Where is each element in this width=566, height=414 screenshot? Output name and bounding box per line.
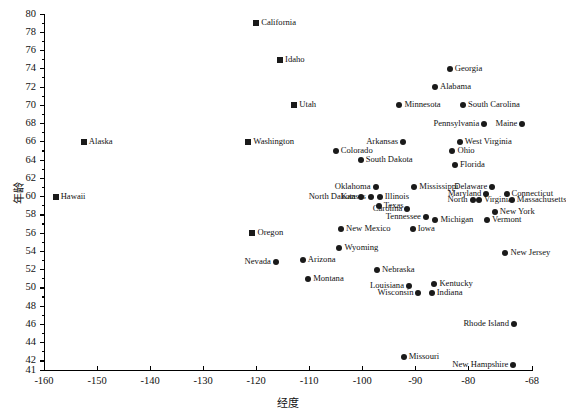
- x-axis-title: 经度: [258, 394, 318, 410]
- data-point-label: New Hampshire: [452, 360, 508, 369]
- data-point[interactable]: [358, 194, 364, 200]
- data-point[interactable]: [396, 102, 402, 108]
- data-point[interactable]: [305, 276, 311, 282]
- data-point[interactable]: [373, 184, 379, 190]
- data-point[interactable]: [81, 139, 87, 145]
- data-point[interactable]: [452, 162, 458, 168]
- data-point-label: Rhode Island: [463, 319, 509, 328]
- data-point-label: Alaska: [89, 137, 113, 146]
- data-point[interactable]: [300, 257, 306, 263]
- data-point-label: Florida: [460, 160, 485, 169]
- data-point-label: Wyoming: [344, 243, 378, 252]
- data-point[interactable]: [447, 66, 453, 72]
- data-point[interactable]: [481, 121, 487, 127]
- data-point[interactable]: [432, 84, 438, 90]
- data-point[interactable]: [411, 184, 417, 190]
- data-point-label: Montana: [313, 274, 344, 283]
- data-point[interactable]: [449, 148, 455, 154]
- data-point[interactable]: [489, 184, 495, 190]
- data-point-label: North: [448, 195, 468, 204]
- data-point-label: North Dakota: [309, 192, 356, 201]
- data-point[interactable]: [457, 139, 463, 145]
- data-point[interactable]: [415, 290, 421, 296]
- data-point[interactable]: [253, 20, 259, 26]
- data-point-label: Minnesota: [404, 100, 440, 109]
- data-point[interactable]: [476, 197, 482, 203]
- data-point[interactable]: [368, 194, 374, 200]
- data-point-label: New Jersey: [510, 248, 550, 257]
- data-point[interactable]: [358, 157, 364, 163]
- data-point-label: Nevada: [245, 257, 271, 266]
- data-point-label: Michigan: [440, 215, 473, 224]
- data-point-label: Massachusetts: [517, 195, 566, 204]
- data-point[interactable]: [53, 194, 59, 200]
- data-point-label: Tennessee: [386, 212, 421, 221]
- data-point-label: Missouri: [409, 352, 440, 361]
- data-point-label: Utah: [299, 100, 316, 109]
- data-point-label: South Carolina: [468, 100, 520, 109]
- data-point-label: Idaho: [285, 55, 305, 64]
- data-point[interactable]: [377, 194, 383, 200]
- data-point[interactable]: [245, 139, 251, 145]
- y-axis-title: 年龄: [10, 182, 26, 204]
- data-point-label: Pennsylvania: [433, 119, 479, 128]
- data-point[interactable]: [336, 245, 342, 251]
- data-point[interactable]: [400, 139, 406, 145]
- data-point[interactable]: [460, 102, 466, 108]
- data-point-label: Nebraska: [382, 265, 414, 274]
- data-point[interactable]: [410, 226, 416, 232]
- data-point[interactable]: [502, 250, 508, 256]
- data-point[interactable]: [519, 121, 525, 127]
- data-point[interactable]: [432, 217, 438, 223]
- data-point-label: Wisconsin: [378, 288, 414, 297]
- data-point-label: California: [261, 18, 296, 27]
- data-point[interactable]: [249, 230, 255, 236]
- data-point-label: Virginia: [484, 195, 512, 204]
- data-point[interactable]: [374, 267, 380, 273]
- data-point[interactable]: [484, 217, 490, 223]
- data-point[interactable]: [273, 259, 279, 265]
- data-point[interactable]: [511, 321, 517, 327]
- data-point-label: Ohio: [457, 146, 474, 155]
- data-point-label: Iowa: [418, 224, 435, 233]
- data-point[interactable]: [423, 214, 429, 220]
- data-point[interactable]: [277, 57, 283, 63]
- data-point-label: Hawaii: [61, 192, 86, 201]
- data-point[interactable]: [470, 197, 476, 203]
- data-point-label: Georgia: [455, 64, 483, 73]
- data-point-label: Vermont: [492, 215, 522, 224]
- data-point-label: Oregon: [257, 228, 283, 237]
- data-point-label: Maine: [495, 119, 517, 128]
- data-point-label: Arizona: [308, 255, 336, 264]
- data-point-label: Indiana: [437, 288, 463, 297]
- data-point-label: South Dakota: [366, 155, 413, 164]
- data-point[interactable]: [510, 362, 516, 368]
- data-point[interactable]: [338, 226, 344, 232]
- data-point[interactable]: [333, 148, 339, 154]
- data-point[interactable]: [509, 197, 515, 203]
- data-point-label: Washington: [253, 137, 294, 146]
- data-point[interactable]: [431, 281, 437, 287]
- data-point[interactable]: [291, 102, 297, 108]
- data-point-label: Alabama: [440, 82, 471, 91]
- data-point-label: New Mexico: [346, 224, 391, 233]
- data-point[interactable]: [429, 290, 435, 296]
- data-point[interactable]: [401, 354, 407, 360]
